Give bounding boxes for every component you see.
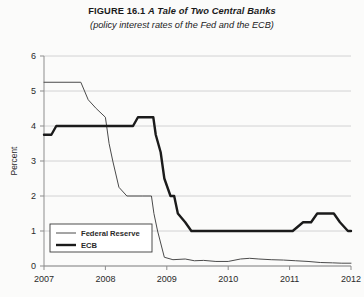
y-axis-title: Percent bbox=[9, 146, 19, 176]
y-tick-label-0: 0 bbox=[31, 261, 36, 271]
legend-label-ecb: ECB bbox=[81, 241, 98, 250]
figure-title: FIGURE 16.1 A Tale of Two Central Banks bbox=[0, 4, 364, 18]
figure-number: FIGURE 16.1 bbox=[88, 6, 145, 16]
y-tick-label-3: 3 bbox=[31, 156, 36, 166]
line-chart: 0123456 200720082009201020112012 Federal… bbox=[0, 38, 364, 297]
x-tick-label-2012: 2012 bbox=[341, 274, 361, 284]
x-tick-label-2008: 2008 bbox=[95, 274, 115, 284]
y-tick-label-2: 2 bbox=[31, 191, 36, 201]
figure-title-text: A Tale of Two Central Banks bbox=[148, 6, 276, 16]
figure-container: FIGURE 16.1 A Tale of Two Central Banks … bbox=[0, 0, 364, 297]
y-axis: 0123456 bbox=[31, 51, 44, 271]
x-axis: 200720082009201020112012 bbox=[34, 266, 361, 284]
y-tick-label-4: 4 bbox=[31, 121, 36, 131]
legend-label-federal-reserve: Federal Reserve bbox=[81, 229, 140, 238]
x-tick-label-2011: 2011 bbox=[280, 274, 299, 284]
chart-area: 0123456 200720082009201020112012 Federal… bbox=[0, 38, 364, 297]
y-tick-label-1: 1 bbox=[31, 226, 36, 236]
series-line-ecb bbox=[44, 117, 351, 231]
y-tick-label-6: 6 bbox=[31, 51, 36, 61]
chart-legend: Federal ReserveECB bbox=[50, 224, 152, 252]
figure-title-block: FIGURE 16.1 A Tale of Two Central Banks … bbox=[0, 4, 364, 32]
y-tick-label-5: 5 bbox=[31, 86, 36, 96]
x-tick-label-2007: 2007 bbox=[34, 274, 54, 284]
figure-subtitle: (policy interest rates of the Fed and th… bbox=[0, 18, 364, 32]
x-tick-label-2009: 2009 bbox=[157, 274, 177, 284]
x-tick-label-2010: 2010 bbox=[218, 274, 238, 284]
